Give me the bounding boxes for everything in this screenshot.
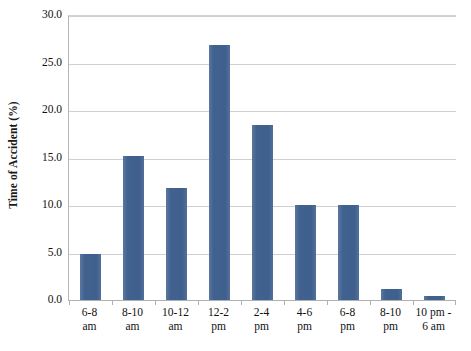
bar <box>338 205 359 301</box>
y-axis-tick-label: 5.0 <box>48 247 62 259</box>
y-axis-tick-label: 25.0 <box>42 57 62 69</box>
plot-area <box>68 15 456 301</box>
bar <box>166 188 187 301</box>
x-axis-line <box>69 300 456 301</box>
y-axis-tick-label: 20.0 <box>42 104 62 116</box>
y-axis-tick-label: 30.0 <box>42 9 62 21</box>
bar <box>295 205 316 301</box>
bar-chart: Time of Accident (%) 0.05.010.015.020.02… <box>0 0 471 351</box>
x-axis-tick-label: 12-2 pm <box>197 305 240 334</box>
x-axis-tick-label: 6-8 pm <box>326 305 369 334</box>
x-axis-tick-label: 4-6 pm <box>283 305 326 334</box>
x-axis-tick-label: 10 pm - 6 am <box>412 305 455 334</box>
gridline <box>69 16 456 17</box>
y-axis-title-label: Time of Accident (%) <box>7 101 19 209</box>
bar <box>209 45 230 302</box>
y-axis-tick-label: 10.0 <box>42 199 62 211</box>
x-axis-tick-label: 8-10 pm <box>369 305 412 334</box>
y-axis-tick-labels: 0.05.010.015.020.025.030.0 <box>22 0 66 310</box>
x-axis-tick-label: 2-4 pm <box>240 305 283 334</box>
gridline <box>69 64 456 65</box>
y-axis-tick-label: 15.0 <box>42 152 62 164</box>
gridline <box>69 111 456 112</box>
bar <box>252 125 273 301</box>
x-axis-tick-label: 8-10 am <box>111 305 154 334</box>
y-axis-title: Time of Accident (%) <box>4 0 22 310</box>
x-axis-tick-labels: 6-8 am8-10 am10-12 am12-2 pm2-4 pm4-6 pm… <box>68 305 456 349</box>
y-axis-tick-label: 0.0 <box>48 294 62 306</box>
x-axis-tick-label: 10-12 am <box>154 305 197 334</box>
bar <box>123 156 144 301</box>
x-axis-tick-label: 6-8 am <box>68 305 111 334</box>
bar <box>80 254 101 302</box>
